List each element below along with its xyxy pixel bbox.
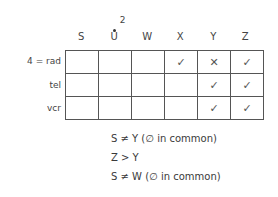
cell-tel-s[interactable] [66, 74, 99, 97]
cell-vcr-z[interactable]: ✓ [231, 97, 264, 120]
row-label-rad: 4 = rad [27, 56, 61, 66]
cell-vcr-s[interactable] [66, 97, 99, 120]
cell-rad-u[interactable] [99, 51, 132, 74]
cell-vcr-x[interactable] [165, 97, 198, 120]
row-label-tel: tel [49, 80, 61, 90]
cell-rad-z[interactable]: ✓ [231, 51, 264, 74]
column-header-u: U [98, 31, 131, 42]
column-header-w: W [131, 31, 164, 42]
cell-rad-y[interactable]: ✕ [198, 51, 231, 74]
column-header-y: Y [197, 31, 230, 42]
column-header-z: Z [229, 31, 262, 42]
column-note-u: 2 [106, 15, 139, 25]
check-icon: ✓ [242, 57, 251, 68]
cell-tel-y[interactable]: ✓ [198, 74, 231, 97]
check-icon: ✓ [176, 57, 185, 68]
grid-row-tel: ✓ ✓ [66, 74, 264, 97]
row-label-vcr: vcr [47, 103, 61, 113]
column-header-x: X [164, 31, 197, 42]
cross-icon: ✕ [209, 57, 218, 68]
cell-tel-w[interactable] [132, 74, 165, 97]
cell-rad-x[interactable]: ✓ [165, 51, 198, 74]
check-icon: ✓ [209, 80, 218, 91]
cell-tel-u[interactable] [99, 74, 132, 97]
check-icon: ✓ [242, 103, 251, 114]
cell-tel-x[interactable] [165, 74, 198, 97]
clue-1: S ≠ Y (∅ in common) [111, 133, 217, 144]
grid-row-vcr: ✓ ✓ [66, 97, 264, 120]
check-icon: ✓ [242, 80, 251, 91]
cell-rad-s[interactable] [66, 51, 99, 74]
column-header-s: S [65, 31, 98, 42]
check-icon: ✓ [209, 103, 218, 114]
cell-vcr-w[interactable] [132, 97, 165, 120]
clue-3: S ≠ W (∅ in common) [111, 171, 221, 182]
logic-grid: ✓ ✕ ✓ ✓ ✓ ✓ ✓ [65, 50, 264, 120]
clue-2: Z > Y [111, 152, 139, 163]
cell-vcr-u[interactable] [99, 97, 132, 120]
grid-row-rad: ✓ ✕ ✓ [66, 51, 264, 74]
cell-tel-z[interactable]: ✓ [231, 74, 264, 97]
cell-vcr-y[interactable]: ✓ [198, 97, 231, 120]
cell-rad-w[interactable] [132, 51, 165, 74]
